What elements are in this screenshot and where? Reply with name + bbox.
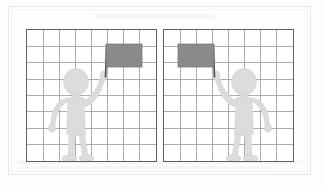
right-panel-content [164, 30, 293, 161]
right-grid-panel[interactable] [163, 29, 294, 162]
figure-scene [0, 0, 323, 187]
left-panel-content [27, 30, 156, 161]
scan-smudge-top [95, 14, 215, 19]
scan-smudge-bottom [20, 166, 270, 169]
left-grid-panel[interactable] [26, 29, 157, 162]
